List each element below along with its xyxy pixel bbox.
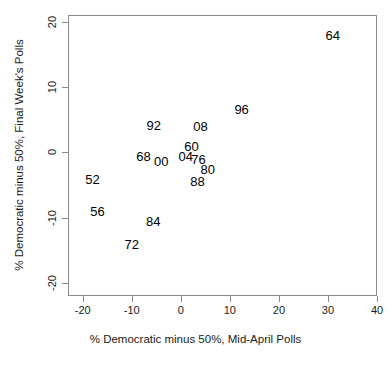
- y-axis-title: % Democratic minus 50%, Final Week's Pol…: [13, 39, 25, 270]
- y-tick-mark: [62, 22, 68, 23]
- x-tick-mark: [279, 296, 280, 302]
- x-tick-label: 0: [178, 304, 184, 316]
- data-point-label: 00: [154, 154, 168, 167]
- data-point-label: 08: [193, 120, 207, 133]
- y-tick-label: 20: [46, 15, 58, 27]
- x-tick-mark: [377, 296, 378, 302]
- data-point-label: 68: [136, 150, 150, 163]
- y-tick-mark: [62, 152, 68, 153]
- x-tick-mark: [181, 296, 182, 302]
- data-point-label: 64: [326, 28, 340, 41]
- plot-data-area: 649608926004760068808852568472: [68, 15, 377, 296]
- x-tick-label: 10: [224, 304, 236, 316]
- data-point-label: 52: [85, 173, 99, 186]
- data-point-label: 88: [190, 174, 204, 187]
- x-axis-title: % Democratic minus 50%, Mid-April Polls: [0, 333, 391, 345]
- y-tick-label: -10: [46, 210, 58, 226]
- data-point-label: 72: [125, 238, 139, 251]
- x-tick-label: 40: [371, 304, 383, 316]
- data-point-label: 92: [147, 118, 161, 131]
- y-tick-mark: [62, 87, 68, 88]
- x-tick-label: -10: [124, 304, 140, 316]
- x-tick-label: -20: [75, 304, 91, 316]
- y-tick-label: -20: [46, 275, 58, 291]
- x-tick-mark: [230, 296, 231, 302]
- scatter-plot-figure: 649608926004760068808852568472 -20-10010…: [0, 0, 391, 365]
- data-point-label: 96: [234, 103, 248, 116]
- x-tick-mark: [328, 296, 329, 302]
- x-tick-label: 30: [322, 304, 334, 316]
- data-point-label: 84: [146, 214, 160, 227]
- data-point-label: 56: [90, 205, 104, 218]
- x-tick-mark: [132, 296, 133, 302]
- y-tick-label: 0: [46, 149, 58, 155]
- y-tick-mark: [62, 218, 68, 219]
- y-tick-mark: [62, 283, 68, 284]
- x-tick-label: 20: [273, 304, 285, 316]
- y-tick-label: 10: [46, 81, 58, 93]
- x-tick-mark: [83, 296, 84, 302]
